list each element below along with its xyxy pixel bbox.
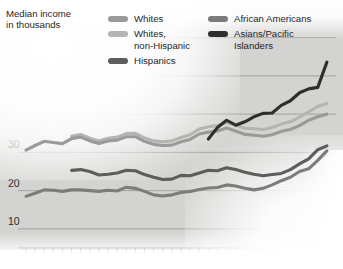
series-line-whites-non-hispanic [72, 103, 327, 141]
legend-label-asians-pacific-islanders: Asians/Pacific Islanders [234, 28, 294, 51]
legend-item: African Americans [208, 13, 336, 24]
legend-item: Whites [108, 13, 204, 24]
legend-label-hispanics: Hispanics [134, 55, 176, 66]
legend-swatch-african-americans [208, 16, 228, 22]
legend-column-right: African Americans Asians/Pacific Islande… [208, 13, 336, 55]
axis-title: Median income in thousands [6, 8, 71, 31]
legend-swatch-asians-pacific-islanders [208, 31, 228, 37]
legend-label-whites-non-hispanic: Whites, non-Hispanic [134, 28, 190, 51]
series-line-whites [26, 114, 327, 150]
legend-swatch-whites-non-hispanic [108, 31, 128, 37]
legend-swatch-whites [108, 16, 128, 22]
chart-figure: 10203040506019671970198019902000 Median … [0, 0, 343, 269]
legend-item: Asians/Pacific Islanders [208, 28, 336, 51]
legend-label-whites: Whites [134, 13, 163, 24]
legend-swatch-hispanics [108, 58, 128, 64]
legend-item: Whites, non-Hispanic [108, 28, 204, 51]
legend-column-left: Whites Whites, non-Hispanic Hispanics [108, 13, 204, 71]
legend-item: Hispanics [108, 55, 204, 66]
series-line-hispanics [72, 146, 327, 180]
legend-label-african-americans: African Americans [234, 13, 311, 24]
